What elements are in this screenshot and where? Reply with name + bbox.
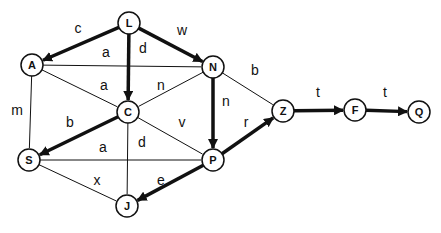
edge-label: v (179, 114, 186, 130)
edge-label: b (66, 114, 74, 130)
node-label: Q (415, 106, 424, 118)
edge-s-j (39, 165, 116, 201)
edge-label: r (244, 114, 249, 130)
edge-label: n (222, 93, 230, 109)
edge-label: e (157, 172, 165, 188)
edge-label: b (251, 62, 259, 78)
node-z: Z (272, 100, 294, 122)
node-label: Z (280, 105, 287, 117)
edge-label: d (138, 134, 146, 150)
edge-label: t (316, 84, 320, 100)
node-label: A (28, 59, 36, 71)
edge-label: d (139, 40, 147, 56)
node-a: A (21, 54, 43, 76)
edge-n-c (139, 72, 204, 106)
node-q: Q (408, 101, 430, 123)
edge-label: n (157, 77, 165, 93)
node-p: P (202, 149, 224, 171)
edge-a-n (43, 65, 201, 67)
node-label: N (209, 61, 217, 73)
edge-label: x (94, 172, 101, 188)
node-label: L (126, 17, 133, 29)
edge-label: w (176, 22, 188, 38)
node-label: P (209, 154, 216, 166)
edge-label: a (102, 44, 110, 60)
node-c: C (117, 101, 139, 123)
edge-label: t (383, 84, 387, 100)
edge-c-p (138, 117, 203, 154)
edge-p-j (138, 165, 204, 200)
edge-l-n (139, 28, 203, 61)
edge-z-f (294, 110, 343, 111)
edge-label: a (100, 77, 108, 93)
node-l: L (118, 12, 140, 34)
node-label: J (124, 200, 130, 212)
node-label: F (352, 104, 359, 116)
node-f: F (344, 99, 366, 121)
node-j: J (116, 195, 138, 217)
node-label: S (25, 154, 32, 166)
edge-labels-layer: cwdaanmnbbvdaxertt (11, 20, 387, 188)
edge-label: a (99, 139, 107, 155)
edge-a-s (29, 76, 31, 148)
node-n: N (202, 56, 224, 78)
edge-label: c (75, 20, 82, 36)
graph-diagram: cwdaanmnbbvdaxertt LANCSPJZFQ (0, 0, 441, 233)
edge-label: m (11, 102, 23, 118)
node-s: S (18, 149, 40, 171)
edge-f-q (366, 110, 407, 111)
edge-c-j (127, 123, 128, 194)
node-label: C (124, 106, 132, 118)
edge-l-c (128, 34, 129, 100)
